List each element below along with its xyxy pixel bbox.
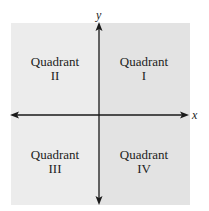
left-half-region <box>11 23 99 205</box>
quadrant-ii-label: Quadrant <box>31 54 80 69</box>
quadrant-i-numeral: I <box>142 68 146 83</box>
coordinate-plane-diagram: y x Quadrant II Quadrant I Quadrant III … <box>0 0 209 211</box>
quadrant-ii-numeral: II <box>51 68 60 83</box>
quadrant-iv-numeral: IV <box>137 161 151 176</box>
quadrant-iii-label: Quadrant <box>31 147 80 162</box>
quadrant-i-label: Quadrant <box>120 54 169 69</box>
quadrant-iii-numeral: III <box>49 161 62 176</box>
y-axis-label: y <box>95 8 102 22</box>
right-half-region <box>99 23 190 205</box>
quadrant-iv-label: Quadrant <box>120 147 169 162</box>
x-axis-label: x <box>191 108 198 122</box>
